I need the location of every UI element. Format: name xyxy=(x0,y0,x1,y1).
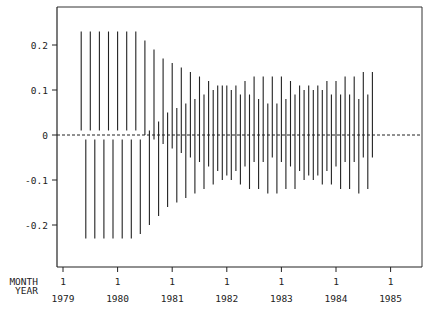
y-axis: 0.20.10-0.1-0.2 xyxy=(25,40,57,231)
x-tick-month-label: 1 xyxy=(333,276,339,287)
y-tick-label: 0.1 xyxy=(31,85,48,96)
x-tick-year-label: 1982 xyxy=(215,293,238,304)
x-tick-year-label: 1983 xyxy=(270,293,293,304)
y-tick-label: -0.2 xyxy=(25,220,48,231)
x-tick-month-label: 1 xyxy=(60,276,66,287)
x-tick-month-label: 1 xyxy=(115,276,121,287)
x-tick-month-label: 1 xyxy=(224,276,230,287)
x-tick-year-label: 1979 xyxy=(52,293,75,304)
x-tick-month-label: 1 xyxy=(388,276,394,287)
x-axis: MONTHYEAR1197911980119811198211983119841… xyxy=(9,267,402,304)
y-tick-label: 0.2 xyxy=(31,40,48,51)
x-tick-month-label: 1 xyxy=(279,276,285,287)
y-tick-label: -0.1 xyxy=(25,175,48,186)
x-tick-year-label: 1984 xyxy=(325,293,348,304)
interval-chart: 0.20.10-0.1-0.2 MONTHYEAR119791198011981… xyxy=(0,0,429,321)
y-tick-label: 0 xyxy=(42,130,48,141)
x-tick-year-label: 1981 xyxy=(161,293,184,304)
x-tick-year-label: 1980 xyxy=(106,293,129,304)
x-axis-row-label: YEAR xyxy=(15,285,38,296)
x-tick-month-label: 1 xyxy=(169,276,175,287)
x-tick-year-label: 1985 xyxy=(379,293,402,304)
